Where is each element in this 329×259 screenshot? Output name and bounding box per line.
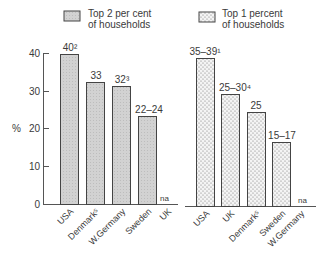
bar-value-label: 40² <box>63 42 78 53</box>
bar-value-label: 25–30⁴ <box>219 82 251 93</box>
bar-value-label: 22–24 <box>135 104 163 115</box>
chart-canvas: Top 2 per cent of households Top 1 perce… <box>0 0 329 259</box>
bar-value-label-na: na <box>298 196 307 205</box>
legend-top-1-percent: Top 1 percent of households <box>199 8 284 30</box>
legend-label-line1: Top 1 percent <box>222 8 283 19</box>
x-label: USA <box>55 206 75 226</box>
bar-sweden <box>139 117 157 205</box>
y-tick-10: 10 <box>29 161 41 172</box>
bars-top-2-percent: 40² 33 32³ 22–24 na <box>61 42 170 205</box>
x-label: USA <box>191 208 211 228</box>
legend-label-line2: of households <box>222 19 284 30</box>
bar-denmark <box>87 83 105 205</box>
x-label: UK <box>220 208 236 224</box>
y-tick-20: 20 <box>29 123 41 134</box>
bar-value-label: 15–17 <box>268 130 296 141</box>
x-label: Sweden <box>123 206 153 236</box>
legend-label-line2: of households <box>88 19 150 30</box>
bar-denmark <box>248 113 266 207</box>
bars-top-1-percent: 35–39¹ 25–30⁴ 25 15–17 na <box>189 46 307 207</box>
legend-label-line1: Top 2 per cent <box>88 8 152 19</box>
y-tick-30: 30 <box>29 86 41 97</box>
x-label: UK <box>157 206 173 222</box>
y-axis: 40 30 20 10 0 % <box>12 48 49 210</box>
legend-swatch-grey <box>64 11 80 21</box>
y-tick-0: 0 <box>34 199 40 210</box>
bar-uk <box>222 95 240 207</box>
bar-value-label: 35–39¹ <box>189 46 221 57</box>
bar-w-germany <box>113 87 131 205</box>
legend-top-2-percent: Top 2 per cent of households <box>64 8 152 30</box>
x-labels-left: USA Denmark⁵ W.Germany Sweden UK <box>55 206 173 247</box>
bar-value-label-na: na <box>160 194 169 203</box>
bar-value-label: 25 <box>250 100 262 111</box>
bar-usa <box>61 55 79 205</box>
bar-value-label: 33 <box>90 70 102 81</box>
bar-sweden <box>273 143 291 207</box>
bar-value-label: 32³ <box>115 74 130 85</box>
legend-swatch-dotted <box>199 12 215 22</box>
y-tick-40: 40 <box>29 48 41 59</box>
bar-usa <box>197 59 215 207</box>
x-labels-right: USA UK Denmark⁵ Sweden W.Germany <box>191 208 307 249</box>
y-axis-label: % <box>12 123 21 134</box>
